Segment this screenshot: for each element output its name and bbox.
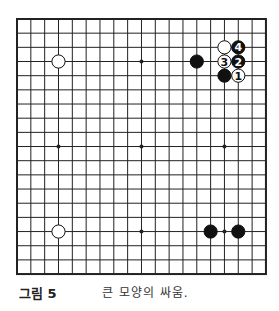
figure-caption: 그림 5 큰 모양의 싸움. (19, 283, 279, 303)
star-point (56, 145, 60, 149)
star-point (139, 60, 143, 64)
black-stone-2: 2 (232, 55, 245, 69)
move-number: 2 (234, 56, 242, 69)
star-point (222, 230, 226, 234)
go-board: 4321 (0, 0, 279, 280)
move-number: 4 (234, 41, 242, 54)
black-stone (204, 225, 217, 238)
white-stone (218, 41, 231, 54)
figure-label: 그림 5 (19, 283, 57, 302)
black-stone (232, 225, 245, 238)
black-stone-4: 4 (232, 41, 245, 55)
move-number: 3 (221, 56, 229, 69)
white-stone (52, 55, 65, 68)
figure-description: 큰 모양의 싸움. (102, 283, 188, 300)
black-stone (190, 55, 203, 68)
white-stone (52, 225, 65, 238)
black-stone (218, 69, 231, 82)
star-point (222, 145, 226, 149)
move-number: 1 (234, 70, 242, 83)
white-stone-3: 3 (218, 55, 231, 69)
star-point (139, 230, 143, 234)
star-point (139, 145, 143, 149)
white-stone-1: 1 (232, 69, 245, 83)
